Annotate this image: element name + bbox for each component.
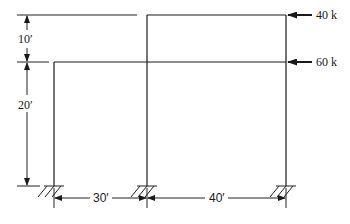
dim-label-20ft: 20′ xyxy=(18,98,33,112)
horizontal-dimensions xyxy=(54,188,286,208)
frame-members xyxy=(54,15,286,186)
fixed-support-left xyxy=(38,186,64,197)
load-label-60k: 60 k xyxy=(316,55,337,69)
fixed-support-right xyxy=(270,186,296,197)
dim-label-40ft: 40′ xyxy=(209,191,225,205)
dim-label-10ft: 10′ xyxy=(18,32,33,46)
fixed-support-middle xyxy=(131,186,157,197)
load-arrows xyxy=(288,15,312,62)
load-label-40k: 40 k xyxy=(316,8,337,22)
vertical-dimensions xyxy=(17,15,137,186)
dim-label-30ft: 30′ xyxy=(93,191,109,205)
frame-diagram: 10′ 20′ 30′ 40′ 40 k 60 k xyxy=(0,0,350,224)
